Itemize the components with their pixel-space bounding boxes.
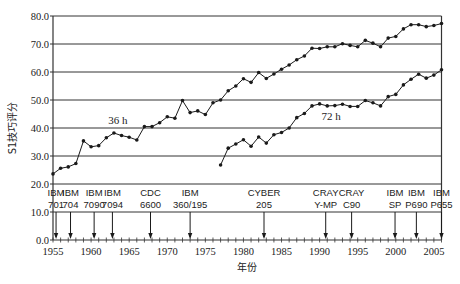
data-point-marker <box>341 102 345 106</box>
annotation-line2: 205 <box>256 199 272 210</box>
data-point-marker <box>325 45 329 49</box>
data-point-marker <box>371 101 375 105</box>
annotation-line1: IBM <box>408 187 425 198</box>
data-point-marker <box>165 115 169 119</box>
x-tick-label: 1970 <box>157 246 178 257</box>
computer-annotations: IBM701IBM704IBM7090IBM7094CDC6600IBM360/… <box>48 187 453 239</box>
y-tick-label: 20.0 <box>31 179 49 190</box>
data-point-marker <box>348 44 352 48</box>
data-point-marker <box>295 116 299 120</box>
annotation-line1: CYBER <box>248 187 281 198</box>
computer-annotation: IBM7094 <box>102 187 123 239</box>
data-point-marker <box>82 139 86 143</box>
data-point-marker <box>74 162 78 166</box>
data-point-marker <box>432 24 436 28</box>
data-point-marker <box>432 73 436 77</box>
data-point-marker <box>280 67 284 71</box>
data-point-marker <box>59 167 63 171</box>
data-point-marker <box>257 135 261 139</box>
arrow-head-icon <box>262 233 266 239</box>
arrow-head-icon <box>393 233 397 239</box>
data-point-marker <box>249 81 253 85</box>
y-tick-label: 70.0 <box>31 39 49 50</box>
annotation-line2: 360/195 <box>173 199 207 210</box>
series-36h: 36 h <box>51 22 443 176</box>
data-point-marker <box>364 99 368 103</box>
data-point-marker <box>280 131 284 135</box>
annotation-line1: CRAY <box>339 187 365 198</box>
computer-annotation: CDC6600 <box>140 187 161 239</box>
data-point-marker <box>257 71 261 75</box>
data-point-marker <box>402 27 406 31</box>
data-point-marker <box>204 113 208 117</box>
arrow-head-icon <box>414 233 418 239</box>
data-point-marker <box>219 163 223 167</box>
data-point-marker <box>143 125 147 129</box>
y-tick-label: 60.0 <box>31 67 49 78</box>
data-point-marker <box>386 36 390 40</box>
y-tick-label: 10.0 <box>31 207 49 218</box>
data-point-marker <box>272 72 276 76</box>
x-tick-label: 1990 <box>309 246 330 257</box>
data-point-marker <box>440 68 444 72</box>
computer-annotation: CYBER205 <box>248 187 281 239</box>
data-point-marker <box>105 136 109 140</box>
data-point-marker <box>97 144 101 148</box>
data-point-marker <box>249 144 253 148</box>
data-series: 36 h72 h <box>51 22 443 176</box>
data-point-marker <box>402 83 406 87</box>
data-point-marker <box>318 47 322 51</box>
annotation-line1: IBM <box>86 187 103 198</box>
data-point-marker <box>287 126 291 130</box>
data-point-marker <box>325 104 329 108</box>
annotation-line1: IBM <box>433 187 450 198</box>
data-point-marker <box>127 135 131 139</box>
annotation-line1: IBM <box>182 187 199 198</box>
annotation-line1: IBM <box>104 187 121 198</box>
computer-annotation: CRAYY-MP <box>313 187 339 239</box>
x-tick-label: 1960 <box>81 246 102 257</box>
x-tick-label: 1975 <box>195 246 216 257</box>
data-point-marker <box>333 104 337 108</box>
data-point-marker <box>264 141 268 145</box>
y-axis-title: S1技巧评分 <box>6 102 18 155</box>
annotation-line2: P690 <box>405 199 427 210</box>
arrow-head-icon <box>68 233 72 239</box>
x-tick-label: 1985 <box>271 246 292 257</box>
data-point-marker <box>196 109 200 113</box>
y-tick-label: 80.0 <box>31 11 49 22</box>
data-point-marker <box>394 93 398 97</box>
data-point-marker <box>242 77 246 81</box>
data-point-marker <box>409 77 413 81</box>
data-point-marker <box>356 45 360 49</box>
arrow-head-icon <box>188 233 192 239</box>
data-point-marker <box>150 125 154 129</box>
x-tick-label: 1955 <box>43 246 64 257</box>
x-tick-label: 1995 <box>347 246 368 257</box>
x-tick-label: 1965 <box>119 246 140 257</box>
data-point-marker <box>394 35 398 39</box>
series-label: 72 h <box>321 110 341 122</box>
data-point-marker <box>417 23 421 27</box>
computer-annotation: CRAYC90 <box>339 187 365 239</box>
data-point-marker <box>356 105 360 109</box>
annotation-line1: CRAY <box>313 187 339 198</box>
data-point-marker <box>120 134 124 138</box>
annotation-line2: 7094 <box>102 199 123 210</box>
data-point-marker <box>287 63 291 67</box>
data-point-marker <box>188 111 192 115</box>
data-point-marker <box>341 42 345 46</box>
y-tick-label: 40.0 <box>31 123 49 134</box>
data-point-marker <box>211 101 215 105</box>
computer-annotation: IBMP690 <box>405 187 427 239</box>
computer-annotation: IBMSP <box>387 187 404 239</box>
x-tick-label: 1980 <box>233 246 254 257</box>
annotation-line2: Y-MP <box>314 199 337 210</box>
data-point-marker <box>409 23 413 27</box>
data-point-marker <box>318 102 322 106</box>
y-tick-label: 50.0 <box>31 95 49 106</box>
data-point-marker <box>226 89 230 93</box>
data-point-marker <box>173 116 177 120</box>
annotation-line1: CDC <box>140 187 161 198</box>
x-tick-label: 2000 <box>385 246 406 257</box>
